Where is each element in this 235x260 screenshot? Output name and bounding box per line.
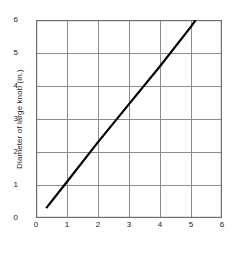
chart-figure: Diameter of large knob (in.) 6 5 4 3 2 1…	[0, 0, 235, 260]
y-tick-label: 0	[4, 214, 18, 222]
y-tick-label: 1	[4, 181, 18, 189]
x-tick-label: 0	[29, 221, 43, 229]
x-tick-label: 2	[91, 221, 105, 229]
y-tick-label: 2	[4, 148, 18, 156]
x-tick-label: 6	[215, 221, 229, 229]
y-tick-label: 5	[4, 49, 18, 57]
y-tick-label: 3	[4, 115, 18, 123]
x-tick-label: 5	[184, 221, 198, 229]
data-line-series-1	[46, 20, 195, 208]
x-tick-label: 1	[60, 221, 74, 229]
plot-svg	[36, 20, 222, 218]
y-tick-label: 6	[4, 16, 18, 24]
x-tick-label: 3	[122, 221, 136, 229]
plot-area	[36, 20, 222, 218]
y-tick-label: 4	[4, 82, 18, 90]
x-tick-label: 4	[153, 221, 167, 229]
